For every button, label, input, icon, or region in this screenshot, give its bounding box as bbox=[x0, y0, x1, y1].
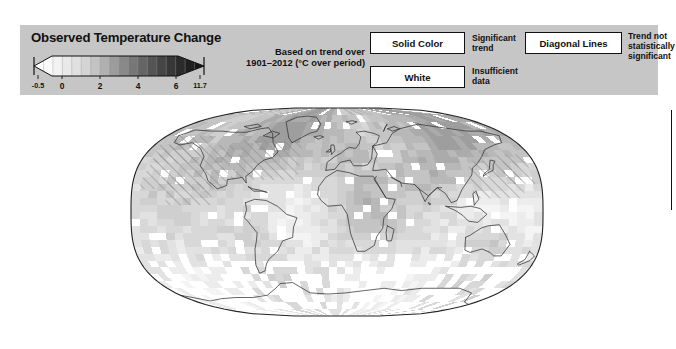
legend-desc-line: Insufficient bbox=[472, 66, 518, 76]
colorbar-tick-label-2: 2 bbox=[98, 81, 103, 91]
colorbar-tick-label-max: 11.7 bbox=[193, 81, 207, 90]
legend-desc-line: Significant bbox=[472, 33, 516, 43]
colorbar: -0.5 0 2 4 6 11.7 bbox=[28, 53, 218, 93]
legend-desc-line: trend bbox=[472, 43, 516, 53]
right-margin-rule bbox=[671, 110, 672, 210]
colorbar-tick-label-4: 4 bbox=[136, 81, 141, 91]
legend-panel: Observed Temperature Change -0.5 0 2 4 6… bbox=[20, 25, 658, 95]
figure-subtitle-line1: Based on trend over bbox=[220, 47, 365, 58]
world-map-svg bbox=[122, 98, 552, 326]
legend-key-diagonal-lines-description: Trend not statistically significant bbox=[628, 31, 675, 62]
figure-subtitle: Based on trend over 1901–2012 (°C over p… bbox=[220, 47, 365, 70]
colorbar-svg: -0.5 0 2 4 6 11.7 bbox=[28, 53, 218, 93]
colorbar-tick-label-min: -0.5 bbox=[32, 81, 44, 90]
colorbar-tick-label-0: 0 bbox=[60, 81, 65, 91]
legend-desc-line: data bbox=[472, 76, 518, 86]
world-map bbox=[122, 98, 552, 326]
colorbar-tick-label-6: 6 bbox=[174, 81, 179, 91]
legend-key-solid-color-description: Significant trend bbox=[472, 33, 516, 53]
figure-subtitle-line2: 1901–2012 (°C over period) bbox=[220, 58, 365, 69]
legend-key-solid-color: Solid Color bbox=[370, 32, 465, 54]
legend-desc-line: significant bbox=[628, 51, 675, 61]
legend-desc-line: Trend not bbox=[628, 31, 675, 41]
legend-key-diagonal-lines: Diagonal Lines bbox=[525, 32, 622, 54]
legend-key-white: White bbox=[370, 66, 465, 88]
legend-key-white-description: Insufficient data bbox=[472, 66, 518, 86]
legend-desc-line: statistically bbox=[628, 41, 675, 51]
page-title: Observed Temperature Change bbox=[31, 30, 221, 45]
